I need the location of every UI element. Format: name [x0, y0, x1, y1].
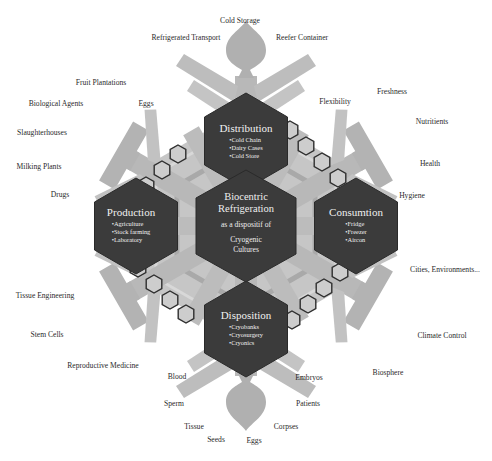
node-title: Distribution	[219, 122, 272, 134]
center-tail-line1: Cryogenic	[201, 235, 291, 245]
label-sperm: Sperm	[164, 400, 184, 408]
node-item: Freezer	[345, 228, 366, 236]
node-item: Cryonics	[229, 339, 263, 347]
label-slaughterhouses: Slaughterhouses	[17, 129, 67, 137]
node-item: Dairy Cases	[229, 144, 262, 152]
label-tissue-engineering: Tissue Engineering	[16, 292, 75, 300]
label-flexibility: Flexibility	[319, 98, 351, 106]
snowflake-diagram: Biocentric Refrigeration as a dispositif…	[0, 0, 492, 461]
label-embryos: Embryos	[295, 374, 322, 382]
center-tail-line2: Cultures	[201, 245, 291, 255]
label-seeds: Seeds	[207, 436, 225, 444]
label-reefer-container: Reefer Container	[276, 34, 328, 42]
label-health: Health	[420, 160, 440, 168]
node-item: Agriculture	[112, 220, 151, 228]
node-items: Agriculture Stock farming Laboratory	[112, 220, 151, 244]
label-hygiene: Hygiene	[399, 192, 425, 200]
node-item: Cryosurgery	[229, 331, 263, 339]
node-items: Cold Chain Dairy Cases Cold Store	[229, 136, 262, 160]
node-item: Cold Store	[229, 152, 262, 160]
center-title-line1: Biocentric	[201, 191, 291, 203]
label-drugs: Drugs	[51, 191, 70, 199]
label-refrigerated-transport: Refrigerated Transport	[152, 34, 221, 42]
node-item: Aircon	[345, 236, 366, 244]
center-subtitle: as a dispositif of	[201, 220, 291, 229]
node-item: Laboratory	[112, 236, 151, 244]
node-item: Fridge	[345, 220, 366, 228]
node-consumption: Consumtion Fridge Freezer Aircon	[329, 206, 383, 246]
node-title: Disposition	[221, 309, 272, 321]
label-eggs-upper: Eggs	[138, 100, 153, 108]
label-blood: Blood	[168, 373, 187, 381]
node-item: Cold Chain	[229, 136, 262, 144]
label-freshness: Freshness	[377, 88, 407, 96]
label-cities-environments: Cities, Environments...	[410, 266, 480, 274]
node-items: Fridge Freezer Aircon	[345, 220, 366, 244]
label-biosphere: Biosphere	[373, 369, 404, 377]
label-milking-plants: Milking Plants	[17, 163, 62, 171]
node-distribution: Distribution Cold Chain Dairy Cases Cold…	[219, 122, 272, 162]
label-reproductive-medicine: Reproductive Medicine	[67, 362, 138, 370]
node-item: Cryobanks	[229, 323, 263, 331]
node-disposition: Disposition Cryobanks Cryosurgery Cryoni…	[221, 309, 272, 349]
label-climate-control: Climate Control	[417, 332, 466, 340]
label-tissue: Tissue	[184, 423, 204, 431]
label-cold-storage: Cold Storage	[220, 17, 260, 25]
node-title: Production	[107, 206, 155, 218]
node-items: Cryobanks Cryosurgery Cryonics	[229, 323, 263, 347]
node-production: Production Agriculture Stock farming Lab…	[107, 206, 155, 246]
center-label: Biocentric Refrigeration as a dispositif…	[201, 191, 291, 255]
label-corpses: Corpses	[274, 423, 298, 431]
label-eggs-bottom: Eggs	[246, 437, 261, 445]
label-nutritients: Nutritients	[416, 118, 448, 126]
label-stem-cells: Stem Cells	[30, 331, 63, 339]
node-item: Stock farming	[112, 228, 151, 236]
label-biological-agents: Biological Agents	[29, 100, 84, 108]
node-title: Consumtion	[329, 206, 383, 218]
label-fruit-plantations: Fruit Plantations	[76, 79, 126, 87]
center-title-line2: Refrigeration	[201, 203, 291, 215]
label-patients: Patients	[296, 400, 320, 408]
